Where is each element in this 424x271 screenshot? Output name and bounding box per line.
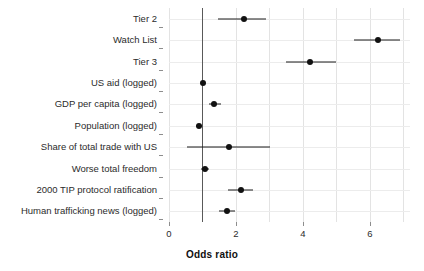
x-axis-tick-label: 4 <box>300 228 305 239</box>
y-axis-tick-mark <box>159 112 163 113</box>
y-axis-tick-mark <box>159 91 163 92</box>
gridline-horizontal <box>169 211 410 212</box>
y-axis-tick-label: Share of total trade with US <box>41 142 157 152</box>
point-estimate-marker <box>238 187 244 193</box>
y-axis-tick-mark <box>159 219 163 220</box>
point-estimate-marker <box>224 208 230 214</box>
x-axis-tick-label: 0 <box>166 228 171 239</box>
y-axis-tick-mark <box>159 70 163 71</box>
y-axis-tick-mark <box>159 27 163 28</box>
y-axis-tick-label: GDP per capita (logged) <box>55 99 157 109</box>
x-axis-tick-mark <box>303 222 304 226</box>
y-axis-tick-mark <box>159 155 163 156</box>
y-axis-tick-mark <box>159 48 163 49</box>
y-axis-tick-label: Tier 2 <box>133 14 157 24</box>
point-estimate-marker <box>202 166 208 172</box>
reference-line-or-1 <box>202 8 203 222</box>
point-estimate-marker <box>375 37 381 43</box>
gridline-horizontal <box>169 190 410 191</box>
x-axis-tick-label: 2 <box>233 228 238 239</box>
x-axis: 0246 <box>169 222 410 248</box>
x-axis-title: Odds ratio <box>0 249 424 260</box>
x-axis-tick-mark <box>169 222 170 226</box>
y-axis-tick-label: Watch List <box>113 35 157 45</box>
x-axis-tick-mark <box>236 222 237 226</box>
gridline-horizontal <box>169 126 410 127</box>
point-estimate-marker <box>307 59 313 65</box>
point-estimate-marker <box>200 80 206 86</box>
x-axis-tick-mark <box>370 222 371 226</box>
y-axis-tick-mark <box>159 134 163 135</box>
x-axis-tick-label: 6 <box>367 228 372 239</box>
y-axis-tick-mark <box>159 177 163 178</box>
y-axis-labels: Tier 2Watch ListTier 3US aid (logged)GDP… <box>0 8 163 222</box>
gridline-horizontal <box>169 19 410 20</box>
point-estimate-marker <box>226 144 232 150</box>
y-axis-tick-label: US aid (logged) <box>91 78 157 88</box>
y-axis-tick-mark <box>159 198 163 199</box>
y-axis-tick-label: Population (logged) <box>75 121 157 131</box>
gridline-horizontal <box>169 104 410 105</box>
y-axis-tick-label: Tier 3 <box>133 57 157 67</box>
point-estimate-marker <box>211 101 217 107</box>
plot-panel <box>169 8 410 222</box>
forest-plot: Tier 2Watch ListTier 3US aid (logged)GDP… <box>0 0 424 271</box>
y-axis-tick-label: Worse total freedom <box>72 164 157 174</box>
point-estimate-marker <box>241 16 247 22</box>
point-estimate-marker <box>196 123 202 129</box>
y-axis-tick-label: 2000 TIP protocol ratification <box>36 185 157 195</box>
y-axis-tick-label: Human trafficking news (logged) <box>21 206 157 216</box>
